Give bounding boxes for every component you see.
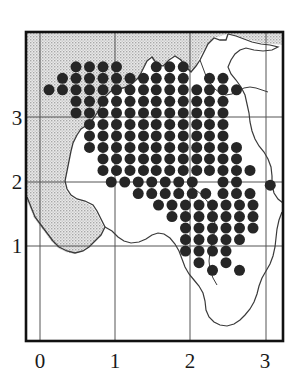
- data-point: [178, 96, 189, 107]
- data-point: [164, 142, 175, 153]
- data-point: [221, 246, 232, 257]
- data-point: [231, 84, 242, 95]
- data-point: [180, 234, 191, 245]
- data-point: [191, 142, 202, 153]
- data-point: [106, 177, 117, 188]
- data-point: [164, 61, 175, 72]
- data-point: [138, 165, 149, 176]
- data-point: [138, 119, 149, 130]
- data-point: [187, 188, 198, 199]
- data-point: [218, 96, 229, 107]
- data-point: [234, 234, 245, 245]
- data-point: [218, 73, 229, 84]
- data-point: [125, 130, 136, 141]
- data-point: [218, 165, 229, 176]
- data-point: [204, 73, 215, 84]
- x-axis-tick-labels: 0123: [35, 349, 271, 373]
- data-point: [204, 119, 215, 130]
- data-point: [204, 142, 215, 153]
- data-point: [178, 61, 189, 72]
- data-point: [164, 107, 175, 118]
- data-point: [71, 84, 82, 95]
- data-point: [84, 84, 95, 95]
- data-point: [138, 96, 149, 107]
- data-point: [245, 165, 256, 176]
- data-point: [98, 165, 109, 176]
- data-point: [178, 153, 189, 164]
- x-tick-label: 3: [260, 349, 271, 373]
- data-point: [178, 119, 189, 130]
- data-point: [111, 165, 122, 176]
- data-point: [204, 107, 215, 118]
- data-point: [125, 84, 136, 95]
- data-point: [151, 61, 162, 72]
- data-point: [164, 153, 175, 164]
- data-point: [191, 130, 202, 141]
- data-point: [221, 234, 232, 245]
- data-point: [84, 96, 95, 107]
- data-point: [218, 153, 229, 164]
- data-point: [180, 246, 191, 257]
- data-point: [218, 177, 229, 188]
- data-point: [151, 142, 162, 153]
- data-point: [180, 200, 191, 211]
- data-point: [180, 223, 191, 234]
- data-point: [151, 107, 162, 118]
- data-point: [178, 73, 189, 84]
- data-point: [265, 180, 276, 191]
- data-point: [151, 96, 162, 107]
- data-point: [207, 234, 218, 245]
- data-point: [194, 234, 205, 245]
- data-point: [234, 265, 245, 276]
- data-point: [167, 200, 178, 211]
- data-point: [125, 107, 136, 118]
- data-point: [138, 73, 149, 84]
- data-point: [231, 177, 242, 188]
- data-point: [111, 84, 122, 95]
- data-point: [153, 200, 164, 211]
- data-point: [178, 165, 189, 176]
- data-point: [234, 223, 245, 234]
- data-point: [160, 188, 171, 199]
- data-point: [178, 130, 189, 141]
- data-point: [125, 142, 136, 153]
- data-point: [194, 246, 205, 257]
- data-point: [194, 223, 205, 234]
- data-point: [231, 153, 242, 164]
- data-point: [98, 130, 109, 141]
- data-point: [164, 84, 175, 95]
- data-point: [218, 119, 229, 130]
- data-point: [191, 96, 202, 107]
- data-point: [207, 265, 218, 276]
- data-point: [207, 200, 218, 211]
- data-point: [218, 188, 229, 199]
- data-point: [164, 165, 175, 176]
- data-point: [178, 142, 189, 153]
- data-point: [234, 200, 245, 211]
- data-point: [164, 96, 175, 107]
- data-point: [111, 73, 122, 84]
- data-point: [57, 84, 68, 95]
- data-point: [218, 142, 229, 153]
- data-point: [111, 153, 122, 164]
- data-point: [111, 96, 122, 107]
- data-point: [133, 188, 144, 199]
- data-point: [191, 153, 202, 164]
- data-point: [221, 223, 232, 234]
- data-point: [178, 107, 189, 118]
- data-point: [187, 177, 198, 188]
- data-point: [218, 84, 229, 95]
- data-point: [111, 61, 122, 72]
- y-tick-label: 2: [12, 170, 23, 194]
- data-point: [151, 84, 162, 95]
- data-point: [167, 211, 178, 222]
- data-point: [146, 188, 157, 199]
- data-point: [98, 96, 109, 107]
- data-point: [191, 84, 202, 95]
- data-point: [248, 200, 259, 211]
- data-point: [191, 119, 202, 130]
- data-point: [71, 73, 82, 84]
- data-point: [125, 165, 136, 176]
- data-point: [111, 130, 122, 141]
- data-point: [98, 153, 109, 164]
